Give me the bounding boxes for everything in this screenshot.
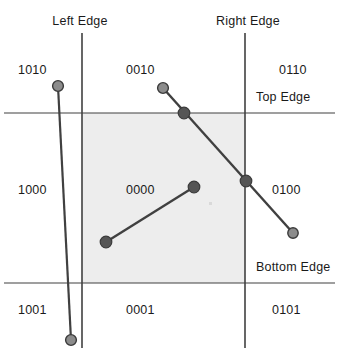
bottom-edge-label: Bottom Edge bbox=[256, 260, 330, 274]
segment-left-outside bbox=[58, 86, 71, 340]
region-code-middle-left: 1000 bbox=[18, 183, 47, 197]
segment-left-outside-endpoint-start bbox=[53, 81, 64, 92]
figure-svg bbox=[0, 0, 339, 355]
region-code-top-center: 0010 bbox=[126, 63, 155, 77]
top-edge-intersection-point bbox=[178, 107, 190, 119]
segment-inside-endpoint-end bbox=[188, 181, 200, 193]
region-code-top-right: 0110 bbox=[279, 63, 307, 77]
region-code-bottom-right: 0101 bbox=[272, 303, 301, 317]
segment-inside-endpoint-start bbox=[100, 236, 112, 248]
figure-canvas: Left Edge Right Edge Top Edge Bottom Edg… bbox=[0, 0, 339, 355]
left-edge-label: Left Edge bbox=[52, 14, 107, 28]
segment-crossing-endpoint-start bbox=[158, 83, 169, 94]
region-code-middle-center: 0000 bbox=[126, 183, 155, 197]
segment-crossing-endpoint-end bbox=[288, 228, 298, 238]
top-edge-label: Top Edge bbox=[256, 90, 310, 104]
right-edge-label: Right Edge bbox=[216, 14, 280, 28]
segment-left-outside-endpoint-end bbox=[66, 335, 77, 346]
speck-artifact bbox=[209, 202, 212, 205]
right-edge-intersection-point bbox=[240, 175, 252, 187]
clipping-window-fill bbox=[82, 113, 245, 283]
region-code-bottom-center: 0001 bbox=[126, 303, 155, 317]
region-code-top-left: 1010 bbox=[18, 63, 47, 77]
region-code-bottom-left: 1001 bbox=[18, 303, 47, 317]
region-code-middle-right: 0100 bbox=[272, 183, 301, 197]
